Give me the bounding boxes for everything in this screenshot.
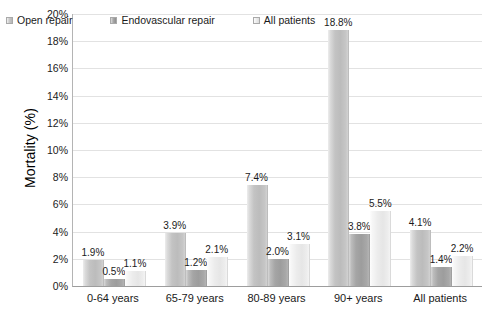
legend-swatch-icon [253, 17, 260, 24]
y-axis-tick-label: 6% [30, 198, 68, 210]
y-axis-tick-label: 10% [30, 144, 68, 156]
bar[interactable]: 2.2% [452, 256, 473, 286]
bar-value-label: 3.1% [287, 231, 310, 242]
bar[interactable]: 1.2% [186, 270, 207, 286]
bar[interactable]: 1.1% [125, 271, 146, 286]
bar[interactable]: 7.4% [247, 185, 268, 286]
legend-item-all-patients[interactable]: All patients [253, 14, 315, 26]
bar[interactable]: 4.1% [410, 230, 431, 286]
y-axis-tick-label: 16% [30, 62, 68, 74]
bar[interactable]: 3.1% [289, 244, 310, 286]
y-axis-tick-label: 12% [30, 117, 68, 129]
legend-label: Endovascular repair [121, 14, 214, 26]
bar-group: 3.9%1.2%2.1% [165, 14, 227, 286]
y-axis-tick-label: 0% [30, 280, 68, 292]
bar[interactable]: 3.9% [165, 233, 186, 286]
bar[interactable]: 3.8% [349, 234, 370, 286]
x-axis-tick-label: 0-64 years [87, 292, 139, 304]
bar-value-label: 1.2% [184, 257, 207, 268]
y-axis-tick-labels: 0%2%4%6%8%10%12%14%16%18%20% [30, 14, 68, 286]
bar-value-label: 0.5% [102, 266, 125, 277]
legend-label: Open repair [17, 14, 72, 26]
bar-value-label: 2.1% [205, 244, 228, 255]
legend-swatch-icon [6, 17, 13, 24]
bar[interactable]: 1.4% [431, 267, 452, 286]
legend-label: All patients [264, 14, 315, 26]
bar-group: 1.9%0.5%1.1% [83, 14, 145, 286]
chart-legend: Open repair Endovascular repair All pati… [6, 14, 353, 26]
x-axis-tick-label: 80-89 years [247, 292, 305, 304]
x-axis-tick-label: All patients [413, 292, 467, 304]
legend-item-open-repair[interactable]: Open repair [6, 14, 72, 26]
bar-chart: Mortality (%) 0%2%4%6%8%10%12%14%16%18%2… [0, 0, 501, 326]
bar-value-label: 1.9% [81, 247, 104, 258]
legend-item-endovascular-repair[interactable]: Endovascular repair [110, 14, 214, 26]
y-axis-tick-label: 8% [30, 171, 68, 183]
legend-swatch-icon [110, 17, 117, 24]
bar[interactable]: 0.5% [104, 279, 125, 286]
x-axis-tick-label: 90+ years [334, 292, 383, 304]
y-axis-tick-label: 14% [30, 90, 68, 102]
bar-group: 7.4%2.0%3.1% [247, 14, 309, 286]
bar[interactable]: 2.1% [207, 257, 228, 286]
bar-value-label: 7.4% [245, 172, 268, 183]
bar-group: 18.8%3.8%5.5% [328, 14, 390, 286]
bar-value-label: 3.8% [348, 221, 371, 232]
x-axis-tick-label: 65-79 years [166, 292, 224, 304]
x-axis-tick-labels: 0-64 years65-79 years80-89 years90+ year… [72, 292, 481, 312]
y-axis-tick-label: 2% [30, 253, 68, 265]
plot-area: 1.9%0.5%1.1%3.9%1.2%2.1%7.4%2.0%3.1%18.8… [72, 14, 482, 287]
bar-value-label: 3.9% [163, 220, 186, 231]
bar[interactable]: 18.8% [328, 30, 349, 286]
bar-value-label: 5.5% [369, 198, 392, 209]
y-axis-tick-label: 18% [30, 35, 68, 47]
bar-value-label: 4.1% [409, 217, 432, 228]
bar-value-label: 1.4% [430, 254, 453, 265]
bar[interactable]: 1.9% [83, 260, 104, 286]
bar[interactable]: 2.0% [268, 259, 289, 286]
bar-value-label: 2.2% [451, 243, 474, 254]
bar-group: 4.1%1.4%2.2% [410, 14, 472, 286]
bar-value-label: 1.1% [123, 258, 146, 269]
bar-value-label: 2.0% [266, 246, 289, 257]
bar[interactable]: 5.5% [370, 211, 391, 286]
y-axis-tick-label: 4% [30, 226, 68, 238]
